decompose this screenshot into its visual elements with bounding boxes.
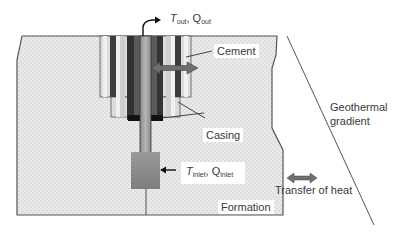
tubing	[140, 36, 151, 154]
outlet-label: Tout, Qout	[170, 12, 211, 28]
cement-label: Cement	[214, 44, 259, 58]
geothermal-gradient-line	[287, 36, 374, 225]
casing-label: Casing	[203, 128, 243, 142]
formation-label: Formation	[218, 200, 274, 214]
bottom-hole-section	[131, 152, 160, 189]
outlet-arrow-icon	[143, 17, 161, 37]
inlet-label: Tinlet, Qinlet	[181, 162, 245, 184]
transfer-of-heat-arrow-icon	[287, 173, 317, 183]
geothermal-gradient-label: Geothermal gradient	[330, 100, 387, 128]
transfer-of-heat-label: Transfer of heat	[275, 184, 352, 196]
